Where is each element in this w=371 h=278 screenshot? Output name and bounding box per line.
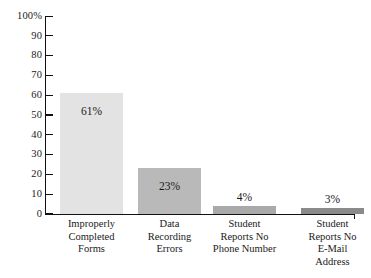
x-axis-category-line: Student — [278, 218, 371, 231]
y-axis-tick-label: 70 — [0, 70, 42, 81]
bar-value-label: 4% — [213, 191, 276, 203]
y-axis-tick-mark — [45, 134, 53, 135]
bar: 4% — [213, 206, 276, 214]
bar-chart: 0102030405060708090100% 61%23%4%3% Impro… — [0, 0, 371, 278]
bar-value-label: 61% — [60, 105, 123, 117]
x-axis-category-labels: ImproperlyCompletedFormsDataRecordingErr… — [46, 218, 355, 278]
bar-value-label: 3% — [301, 193, 364, 205]
y-axis-tick-label: 90 — [0, 31, 42, 42]
y-axis-tick-label: 60 — [0, 90, 42, 101]
x-axis-category-label: StudentReports NoE-MailAddress — [278, 218, 371, 268]
x-axis-category-line: E-Mail — [278, 243, 371, 256]
y-axis-tick-mark — [45, 75, 53, 76]
bar-value-label: 23% — [138, 180, 201, 192]
plot-area: 61%23%4%3% — [46, 16, 355, 214]
y-axis-tick-label: 100% — [0, 11, 42, 22]
y-axis-tick-mark — [45, 194, 53, 195]
y-axis-tick-mark — [45, 174, 53, 175]
y-axis-tick-label: 80 — [0, 50, 42, 61]
y-axis-tick-label: 50 — [0, 110, 42, 121]
x-axis-category-line: Reports No — [278, 231, 371, 244]
y-axis-tick-label: 30 — [0, 149, 42, 160]
y-axis-tick-mark — [45, 35, 53, 36]
y-axis-tick-label: 40 — [0, 130, 42, 141]
y-axis-tick-label: 10 — [0, 189, 42, 200]
y-axis-tick-mark — [45, 114, 53, 115]
y-axis-tick-mark — [45, 95, 53, 96]
x-axis-category-line: Address — [278, 256, 371, 269]
bar: 3% — [301, 208, 364, 214]
y-axis-tick-mark — [45, 154, 53, 155]
y-axis-tick-mark — [45, 213, 53, 214]
y-axis-tick-label: 20 — [0, 169, 42, 180]
bar: 61% — [60, 93, 123, 214]
bar: 23% — [138, 168, 201, 214]
y-axis-tick-mark — [45, 55, 53, 56]
